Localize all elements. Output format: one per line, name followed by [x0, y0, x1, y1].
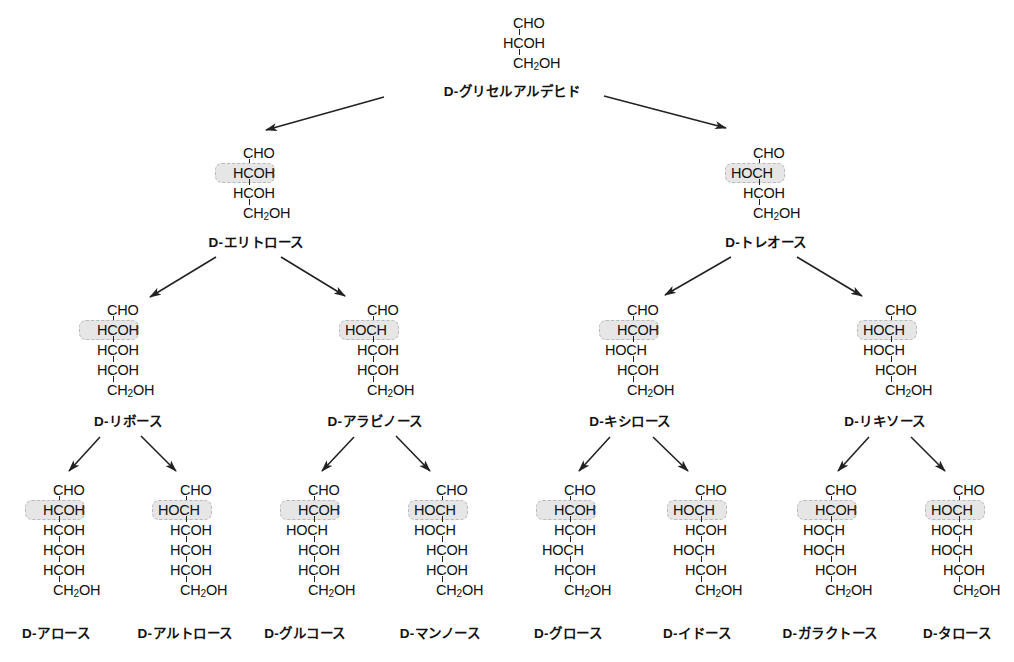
formula-row: HCOH — [357, 360, 399, 380]
formula-row: HCOH — [170, 540, 212, 560]
formula-row: HCOH — [233, 163, 275, 183]
sugar-name-label: D-エリトロース — [208, 231, 303, 251]
formula-row: CH2OH — [367, 380, 414, 400]
formula-row: HCOH — [554, 520, 596, 540]
formula-row: HCOH — [617, 320, 659, 340]
formula-row: HCOH — [617, 360, 659, 380]
arrow-arabinose-to-mannose — [396, 436, 430, 471]
formula-row: HCOH — [43, 560, 85, 580]
arrow-group — [69, 96, 945, 471]
formula-row: HCOH — [170, 520, 212, 540]
formula-row: HOCH — [931, 520, 973, 540]
sugar-name-label: D-キシロース — [589, 410, 671, 430]
formula-row: CH2OH — [627, 380, 674, 400]
formula-row: HOCH — [286, 520, 328, 540]
formula-row: HOCH — [158, 500, 200, 520]
arrow-glyceraldehyde-to-threose — [604, 96, 726, 128]
formula-row: CH2OH — [825, 580, 872, 600]
arrow-lyxose-to-talose — [911, 437, 945, 471]
formula-row: HOCH — [605, 340, 647, 360]
formula-row: HCOH — [943, 560, 985, 580]
arrow-threose-to-xylose — [665, 257, 731, 295]
arrow-erythrose-to-arabinose — [281, 257, 345, 296]
formula-row: HCOH — [875, 360, 917, 380]
sugar-name-label: D-グルコース — [264, 622, 346, 642]
formula-row: HOCH — [414, 500, 456, 520]
arrow-lyxose-to-galactose — [838, 437, 869, 471]
formula-row: HCOH — [170, 560, 212, 580]
arrow-erythrose-to-ribose — [150, 257, 216, 297]
sugar-name-label: D-アルトロース — [137, 622, 232, 642]
sugar-name-label: D-アロース — [22, 622, 90, 642]
formula-row: CH2OH — [513, 53, 560, 73]
formula-row: HOCH — [731, 163, 773, 183]
formula-row: HCOH — [298, 500, 340, 520]
arrow-arabinose-to-glucose — [322, 437, 354, 471]
formula-row: HCOH — [97, 340, 139, 360]
formula-row: HOCH — [803, 540, 845, 560]
arrow-xylose-to-gulose — [579, 437, 610, 471]
formula-row: HCOH — [685, 520, 727, 540]
sugar-name-label: D-トレオース — [725, 231, 807, 251]
arrow-xylose-to-idose — [653, 437, 688, 471]
formula-row: CH2OH — [180, 580, 227, 600]
formula-row: HCOH — [503, 33, 545, 53]
formula-row: CH2OH — [885, 380, 932, 400]
formula-row: HCOH — [815, 560, 857, 580]
sugar-name-label: D-リボース — [94, 410, 162, 430]
arrow-ribose-to-altrose — [141, 436, 176, 471]
formula-row: CH2OH — [953, 580, 1000, 600]
formula-row: HCOH — [233, 183, 275, 203]
formula-row: HCOH — [743, 183, 785, 203]
formula-row: HCOH — [298, 540, 340, 560]
sugar-name-label: D-タロース — [923, 622, 991, 642]
formula-row: HCOH — [43, 540, 85, 560]
formula-row: HCOH — [426, 540, 468, 560]
formula-row: HCOH — [97, 320, 139, 340]
formula-row: HOCH — [863, 340, 905, 360]
formula-row: HOCH — [931, 500, 973, 520]
formula-row: HOCH — [414, 520, 456, 540]
sugar-name-label: D-ガラクトース — [782, 622, 877, 642]
formula-row: HCOH — [357, 340, 399, 360]
arrow-threose-to-lyxose — [797, 257, 862, 296]
formula-row: CH2OH — [436, 580, 483, 600]
formula-row: HCOH — [298, 560, 340, 580]
arrow-ribose-to-allose — [69, 437, 100, 471]
sugar-name-label: D-アラビノース — [327, 410, 422, 430]
sugar-name-label: D-グリセルアルデヒド — [444, 80, 581, 100]
formula-row: HCOH — [97, 360, 139, 380]
arrow-glyceraldehyde-to-erythrose — [266, 97, 384, 130]
formula-row: HOCH — [673, 500, 715, 520]
formula-row: HCOH — [43, 500, 85, 520]
formula-row: HCOH — [685, 560, 727, 580]
formula-row: HOCH — [863, 320, 905, 340]
formula-row: CH2OH — [753, 203, 800, 223]
formula-row: HOCH — [673, 540, 715, 560]
sugar-name-label: D-イドース — [663, 622, 731, 642]
formula-row: HCOH — [43, 520, 85, 540]
formula-row: CH2OH — [308, 580, 355, 600]
sugar-name-label: D-リキソース — [844, 410, 926, 430]
formula-row: HCOH — [554, 560, 596, 580]
formula-row: CH2OH — [564, 580, 611, 600]
formula-row: CH2OH — [107, 380, 154, 400]
sugar-name-label: D-マンノース — [400, 622, 481, 642]
formula-row: CH2OH — [53, 580, 100, 600]
formula-row: CH2OH — [243, 203, 290, 223]
formula-row: HOCH — [931, 540, 973, 560]
formula-row: HOCH — [803, 520, 845, 540]
formula-row: HCOH — [426, 560, 468, 580]
formula-row: HOCH — [345, 320, 387, 340]
formula-row: HCOH — [815, 500, 857, 520]
formula-row: CH2OH — [695, 580, 742, 600]
formula-row: HOCH — [542, 540, 584, 560]
sugar-name-label: D-グロース — [534, 622, 602, 642]
formula-row: HCOH — [554, 500, 596, 520]
